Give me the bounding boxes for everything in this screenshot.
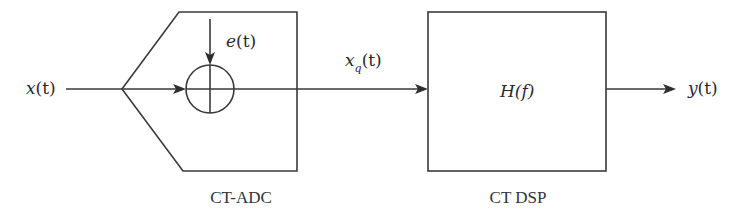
input-signal-label: x(t) — [26, 78, 56, 98]
ct-adc-dsp-block-diagram: x(t) e(t) xq(t) H(f) y(t) CT-ADC CT DSP — [0, 0, 748, 218]
error-signal-label: e(t) — [226, 31, 256, 51]
summing-junction — [186, 65, 234, 113]
transfer-function-label: H(f) — [499, 81, 534, 101]
ct-dsp-caption: CT DSP — [490, 188, 547, 207]
quantized-signal-label: xq(t) — [345, 50, 382, 75]
ct-adc-caption: CT-ADC — [210, 188, 272, 207]
output-signal-label: y(t) — [687, 78, 718, 98]
ct-dsp-block: H(f) — [428, 12, 606, 171]
